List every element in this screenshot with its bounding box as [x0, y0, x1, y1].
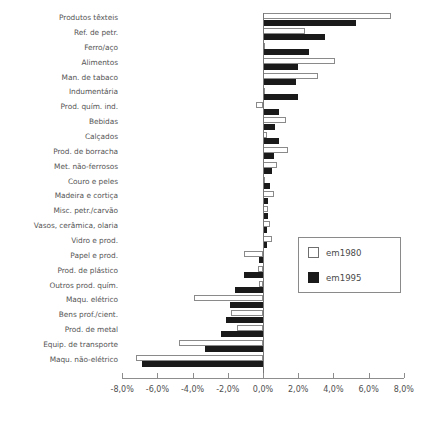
x-tick-mark — [369, 373, 370, 378]
bar-1995 — [263, 34, 325, 40]
legend-label-1980: em1980 — [326, 248, 362, 258]
bar-group — [0, 191, 431, 206]
x-tick-mark — [157, 373, 158, 378]
bar-group — [0, 176, 431, 191]
legend-entry-1980: em1980 — [308, 247, 362, 258]
x-tick-label: -8,0% — [111, 385, 134, 394]
legend-label-1995: em1995 — [326, 273, 362, 283]
bar-1995 — [263, 79, 296, 85]
bar-group — [0, 162, 431, 177]
bar-group — [0, 325, 431, 340]
x-tick-label: -6,0% — [146, 385, 169, 394]
bar-1980 — [263, 73, 318, 79]
x-tick-mark — [298, 373, 299, 378]
bar-1995 — [263, 153, 274, 159]
x-tick-label: 8,0% — [394, 385, 414, 394]
bar-1995 — [263, 183, 270, 189]
x-tick-mark — [404, 373, 405, 378]
bar-1995 — [263, 124, 275, 130]
bar-1995 — [226, 317, 263, 323]
bar-1980 — [231, 310, 263, 316]
bar-1995 — [263, 20, 356, 26]
bar-1995 — [221, 331, 263, 337]
bar-group — [0, 221, 431, 236]
x-tick-mark — [263, 373, 264, 378]
bar-1980 — [263, 58, 335, 64]
bar-group — [0, 58, 431, 73]
bar-group — [0, 355, 431, 370]
bar-group — [0, 147, 431, 162]
x-tick-mark — [228, 373, 229, 378]
bar-1980 — [179, 340, 263, 346]
bar-1980 — [136, 355, 263, 361]
bar-1980 — [263, 117, 286, 123]
chart-legend: em1980 em1995 — [298, 237, 401, 293]
bar-chart: Produtos têxteisRef. de petr.Ferro/açoAl… — [0, 0, 431, 423]
legend-swatch-1980-icon — [308, 247, 319, 258]
bar-1980 — [194, 295, 263, 301]
x-tick-mark — [333, 373, 334, 378]
bar-group — [0, 132, 431, 147]
bar-1995 — [263, 64, 298, 70]
bar-1980 — [244, 251, 263, 257]
x-axis-line — [122, 378, 404, 379]
x-tick-mark — [122, 373, 123, 378]
bar-group — [0, 310, 431, 325]
bar-group — [0, 43, 431, 58]
bar-1995 — [263, 49, 309, 55]
x-tick-label: -4,0% — [181, 385, 204, 394]
bar-1980 — [263, 191, 274, 197]
bar-1980 — [263, 236, 272, 242]
bar-group — [0, 206, 431, 221]
bar-group — [0, 72, 431, 87]
bar-1980 — [263, 13, 391, 19]
bar-1980 — [263, 147, 288, 153]
bar-1980 — [256, 102, 263, 108]
bar-group — [0, 13, 431, 28]
bar-1980 — [263, 221, 270, 227]
bar-group — [0, 87, 431, 102]
bar-1995 — [263, 109, 279, 115]
bar-1995 — [244, 272, 263, 278]
bar-1980 — [237, 325, 263, 331]
plot-area — [0, 13, 431, 370]
bar-1995 — [205, 346, 263, 352]
bar-group — [0, 102, 431, 117]
x-tick-mark — [193, 373, 194, 378]
bar-1995 — [263, 138, 279, 144]
x-tick-label: 2,0% — [288, 385, 308, 394]
legend-entry-1995: em1995 — [308, 272, 362, 283]
bar-1995 — [230, 302, 263, 308]
bar-1995 — [235, 287, 263, 293]
legend-swatch-1995-icon — [308, 272, 319, 283]
bar-1980 — [263, 162, 277, 168]
bar-group — [0, 340, 431, 355]
x-tick-label: 0,0% — [253, 385, 273, 394]
x-tick-label: 6,0% — [358, 385, 378, 394]
x-tick-label: 4,0% — [323, 385, 343, 394]
bar-group — [0, 28, 431, 43]
bar-group — [0, 117, 431, 132]
bar-1995 — [263, 94, 298, 100]
bar-group — [0, 295, 431, 310]
bar-1995 — [142, 361, 263, 367]
bar-1980 — [263, 28, 305, 34]
zero-axis-line — [263, 13, 264, 378]
bar-1995 — [263, 168, 272, 174]
x-tick-label: -2,0% — [216, 385, 239, 394]
